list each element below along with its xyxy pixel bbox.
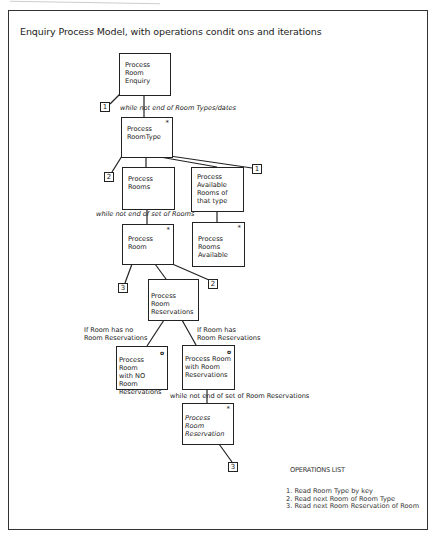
- connector-lines: [0, 0, 439, 542]
- operation-label-2: 2: [208, 279, 218, 289]
- iteration-marker-icon: *: [167, 227, 171, 234]
- box-label: Available: [197, 181, 240, 189]
- box-label: with NO Room: [119, 372, 164, 388]
- process-available-rooms-box: Process Available Rooms of that type: [191, 167, 244, 212]
- condition-line: Room Reservations: [197, 334, 260, 342]
- operation-label-2: 2: [104, 172, 114, 182]
- box-label: Reservations: [119, 388, 164, 396]
- box-label: Rooms: [128, 183, 171, 191]
- box-label: Process: [128, 235, 170, 243]
- box-label: Process: [128, 175, 171, 183]
- box-label: Process: [127, 125, 169, 133]
- iteration-marker-icon: *: [238, 225, 242, 232]
- iteration-marker-icon: *: [166, 120, 170, 127]
- process-room-no-reservations-box: o Process Room with NO Room Reservations: [116, 346, 168, 390]
- condition-line: If Room has: [197, 326, 260, 334]
- box-label: Available: [198, 251, 241, 259]
- condition-line: Room Reservations: [84, 334, 147, 342]
- operation-label-3: 3: [228, 462, 238, 472]
- box-label: that type: [197, 197, 240, 205]
- box-label: Reservation: [185, 430, 230, 438]
- box-label: Process Room: [185, 414, 230, 430]
- box-label: Process Room: [119, 356, 164, 372]
- box-label: Process: [197, 173, 240, 181]
- box-label: Reservations: [185, 371, 231, 379]
- process-rooms-box: Process Rooms: [122, 167, 175, 210]
- box-label: Process Room: [151, 292, 195, 308]
- condition-no-reservations: If Room has no Room Reservations: [84, 326, 147, 342]
- condition-rooms: while not end of set of Rooms: [96, 210, 194, 218]
- iteration-marker-icon: *: [227, 406, 231, 413]
- box-label: Rooms: [198, 243, 241, 251]
- box-label: Enquiry: [125, 77, 167, 85]
- box-label: Reservations: [151, 308, 195, 316]
- process-room-box: * Process Room: [122, 224, 174, 265]
- box-label: Process: [125, 61, 167, 69]
- operation-label-1: 1: [252, 164, 262, 174]
- condition-has-reservations: If Room has Room Reservations: [197, 326, 260, 342]
- condition-line: If Room has no: [84, 326, 147, 334]
- selection-marker-icon: o: [227, 348, 231, 355]
- process-room-reservations-box: Process Room Reservations: [148, 279, 199, 321]
- operations-list-item: 3. Read next Room Reservation of Room: [286, 503, 419, 511]
- operations-list-heading: OPERATIONS LIST: [290, 466, 419, 474]
- condition-reservations: while not end of set of Room Reservation…: [170, 392, 309, 400]
- box-label: Rooms of: [197, 189, 240, 197]
- box-label: Room: [125, 69, 167, 77]
- operation-label-1: 1: [100, 102, 110, 112]
- box-label: Room: [128, 243, 170, 251]
- condition-room-types: while not end of Room Types/dates: [120, 104, 236, 112]
- process-roomtype-box: * Process RoomType: [121, 117, 173, 158]
- process-room-with-reservations-box: o Process Room with Room Reservations: [182, 345, 235, 390]
- process-room-reservation-box: * Process Room Reservation: [182, 403, 234, 445]
- box-label: Process: [198, 235, 241, 243]
- box-label: RoomType: [127, 133, 169, 141]
- process-rooms-available-box: * Process Rooms Available: [192, 222, 245, 267]
- process-room-enquiry-box: Process Room Enquiry: [119, 53, 171, 96]
- operation-label-3: 3: [118, 283, 128, 293]
- box-label: with Room: [185, 363, 231, 371]
- box-label: Process Room: [185, 355, 231, 363]
- operations-list: OPERATIONS LIST 1. Read Room Type by key…: [286, 466, 419, 511]
- selection-marker-icon: o: [160, 349, 164, 356]
